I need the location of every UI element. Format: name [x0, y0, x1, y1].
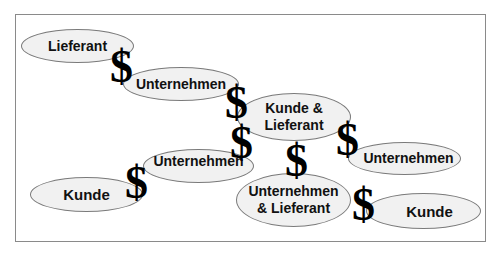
node-label: Lieferant [48, 38, 107, 55]
node-label: Kunde [63, 186, 110, 203]
dollar-icon: $ [352, 182, 375, 228]
node-kunde-lieferant: Kunde & Lieferant [237, 93, 351, 141]
node-kunde-right: Kunde [366, 193, 481, 229]
dollar-icon: $ [125, 160, 148, 206]
node-label-line1: Kunde & [265, 100, 323, 117]
dollar-icon: $ [285, 138, 308, 184]
dollar-icon: $ [336, 117, 359, 163]
node-label: Kunde [394, 203, 453, 220]
node-label: Unternehmen [355, 150, 453, 167]
node-label-line2: Lieferant [264, 117, 323, 134]
node-unternehmen-right: Unternehmen [348, 142, 461, 175]
node-unternehmen-top: Unternehmen [123, 67, 239, 101]
node-label: Unternehmen [136, 76, 226, 93]
node-label-line2: & Lieferant [257, 200, 330, 217]
dollar-icon: $ [110, 44, 133, 90]
dollar-icon: $ [230, 120, 253, 166]
